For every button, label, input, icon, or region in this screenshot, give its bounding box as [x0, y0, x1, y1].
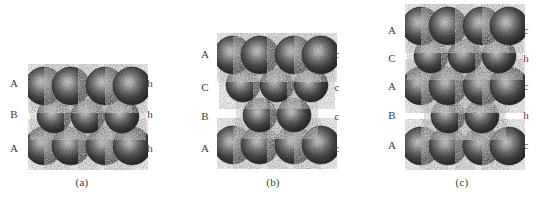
layer-label-left-c-3: B: [388, 110, 396, 121]
layer-label-right-b-1: c: [334, 82, 339, 93]
layer-label-right-c-3: h: [523, 110, 529, 121]
sphere-layer-c: [226, 68, 328, 102]
panel-b: [217, 33, 337, 169]
panel-c: [405, 4, 525, 170]
sphere: [302, 36, 337, 74]
sphere-layer-a: [217, 126, 337, 164]
layer-label-left-b-3: A: [201, 143, 209, 154]
panel-caption-a: (a): [76, 176, 89, 188]
layer-label-right-c-2: c: [523, 81, 528, 92]
panel-caption-c: (c): [456, 176, 469, 188]
layer-label-right-a-1: h: [147, 109, 153, 120]
sphere-stack-c: [405, 4, 525, 170]
layer-label-right-b-2: c: [334, 111, 339, 122]
layer-label-left-c-4: A: [388, 140, 396, 151]
sphere: [302, 126, 337, 164]
layer-label-right-a-2: h: [147, 143, 153, 154]
sphere: [52, 67, 90, 105]
layer-label-left-c-0: A: [388, 25, 396, 36]
layer-label-right-b-0: c: [334, 49, 339, 60]
layer-label-left-c-2: A: [388, 81, 396, 92]
sphere: [429, 7, 467, 45]
close-packed-stacking-figure: AhBhAh(a)AcCcBcAc(b)AcChAcBhAc(c): [0, 0, 545, 201]
sphere: [243, 98, 277, 132]
panel-a: [28, 64, 148, 170]
sphere-layer-b: [243, 98, 311, 132]
sphere-layer-b: [37, 99, 139, 133]
layer-label-left-a-0: A: [10, 78, 18, 89]
sphere: [277, 98, 311, 132]
layer-label-right-c-1: h: [523, 53, 529, 64]
layer-label-left-a-2: A: [10, 143, 18, 154]
sphere-layer-c: [414, 39, 516, 73]
panel-caption-b: (b): [266, 176, 279, 188]
layer-label-right-a-0: h: [147, 78, 153, 89]
sphere: [113, 67, 148, 105]
sphere: [241, 36, 279, 74]
layer-label-right-b-3: c: [334, 143, 339, 154]
sphere-layer-a: [405, 127, 525, 165]
sphere: [490, 7, 525, 45]
sphere-stack-b: [217, 33, 337, 169]
layer-label-left-a-1: B: [10, 109, 18, 120]
sphere: [490, 127, 525, 165]
layer-label-left-b-0: A: [201, 49, 209, 60]
layer-label-left-b-1: C: [201, 82, 209, 93]
sphere-stack-a: [28, 64, 148, 170]
layer-label-left-c-1: C: [388, 53, 396, 64]
layer-label-left-b-2: B: [201, 111, 209, 122]
layer-label-right-c-0: c: [523, 25, 528, 36]
layer-label-right-c-4: c: [523, 140, 528, 151]
